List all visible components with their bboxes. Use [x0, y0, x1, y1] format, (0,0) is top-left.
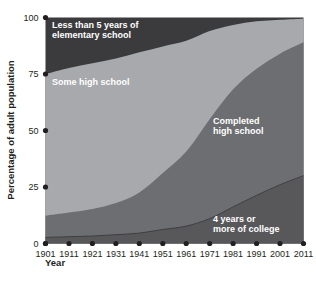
x-tick-label: 1951 — [153, 249, 173, 259]
stacked-area-chart: 0255075100 19011911192119311941195119611… — [0, 0, 316, 285]
x-tick-label: 1961 — [176, 249, 196, 259]
plot-mask-top — [0, 0, 316, 17]
area-bands-group — [46, 18, 304, 244]
x-tick-dot — [207, 241, 212, 246]
series-label-line-1: Less than 5 years of — [52, 20, 140, 30]
chart-container: 0255075100 19011911192119311941195119611… — [0, 0, 316, 285]
y-axis-title: Percentage of adult population — [5, 60, 16, 200]
x-tick-dot — [254, 241, 259, 246]
y-tick-label: 0 — [33, 239, 38, 249]
x-tick-dot — [137, 241, 142, 246]
y-tick-dot — [43, 128, 48, 133]
x-tick-dot — [43, 241, 48, 246]
x-axis-title: Year — [45, 257, 65, 268]
x-tick-dot — [66, 241, 71, 246]
series-label-line-2: elementary school — [52, 30, 131, 40]
series-label-line-1: Some high school — [52, 77, 130, 87]
x-tick-dot — [113, 241, 118, 246]
x-tick-dot — [90, 241, 95, 246]
x-tick-label: 1981 — [223, 249, 243, 259]
series-label-line-2: high school — [213, 126, 264, 136]
x-tick-label: 2001 — [270, 249, 290, 259]
x-tick-dot — [231, 241, 236, 246]
y-tick-dot — [43, 71, 48, 76]
x-tick-dot — [277, 241, 282, 246]
x-tick-label: 1971 — [200, 249, 220, 259]
series-label-line-1: Completed — [213, 116, 260, 126]
x-tick-label: 1931 — [106, 249, 126, 259]
series-label-line-1: 4 years or — [213, 214, 256, 224]
x-tick-label: 1991 — [247, 249, 267, 259]
y-tick-dot — [43, 15, 48, 20]
y-tick-label: 100 — [23, 13, 38, 23]
series-annotation-less-than-5-years: Less than 5 years of elementary school — [52, 20, 140, 40]
x-tick-dot — [160, 241, 165, 246]
series-annotation-completed-high-school: Completed high school — [213, 116, 264, 136]
series-annotation-some-high-school: Some high school — [52, 77, 130, 87]
x-tick-label: 1941 — [129, 249, 149, 259]
x-tick-label: 2011 — [294, 249, 313, 259]
x-tick-dot — [301, 241, 306, 246]
y-tick-label: 75 — [28, 69, 38, 79]
x-tick-dot — [184, 241, 189, 246]
series-label-line-2: more of college — [213, 224, 280, 234]
y-tick-label: 25 — [28, 182, 38, 192]
y-tick-dot — [43, 184, 48, 189]
y-tick-label: 50 — [28, 126, 38, 136]
x-tick-label: 1921 — [82, 249, 102, 259]
